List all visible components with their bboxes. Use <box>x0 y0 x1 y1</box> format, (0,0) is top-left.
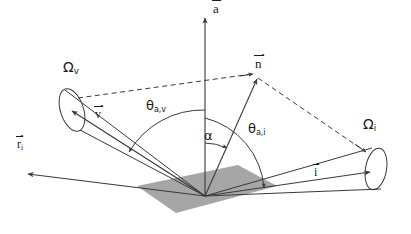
angle-arc-alpha <box>205 143 227 148</box>
normal-vector-label: n <box>255 57 262 70</box>
dashed-line-arrowheads <box>240 74 366 152</box>
alpha-base: α <box>204 128 213 143</box>
diagram-canvas: a n v i ri Ωv Ωi θa,v θa,i α <box>0 0 411 234</box>
view-vector-base: v <box>95 107 101 121</box>
incident-vector-label: i <box>314 166 317 178</box>
axis-vector-base: a <box>213 1 219 16</box>
dashed-construction-lines <box>78 74 366 152</box>
geometry-figure <box>0 0 411 234</box>
solid-angle-view-subscript: v <box>74 66 79 76</box>
solid-angle-incident-label: Ωi <box>363 117 376 133</box>
solid-angle-incident-base: Ω <box>363 116 374 132</box>
reflection-vector-subscript: i <box>21 143 23 152</box>
theta-ai-base: θ <box>248 121 256 136</box>
theta-ai-subscript: a,i <box>256 128 265 137</box>
axis-vector-label: a <box>213 2 219 15</box>
reflection-vector-base: r <box>17 137 21 151</box>
solid-angle-view-base: Ω <box>63 59 74 75</box>
angle-arc-theta-av <box>129 110 205 152</box>
theta-ai-label: θa,i <box>248 122 265 137</box>
view-vector-v <box>72 111 205 196</box>
solid-angle-view-label: Ωv <box>63 60 79 76</box>
solid-angle-cone-view <box>54 86 205 196</box>
solid-angle-incident-subscript: i <box>374 123 376 133</box>
view-vector-label: v <box>95 108 101 120</box>
reflection-vector-label: ri <box>17 138 23 151</box>
theta-av-base: θ <box>146 98 154 113</box>
theta-av-subscript: a,v <box>154 105 166 114</box>
incident-vector-base: i <box>314 165 317 179</box>
theta-av-label: θa,v <box>146 99 166 114</box>
alpha-label: α <box>204 129 213 142</box>
normal-vector-base: n <box>255 56 262 71</box>
